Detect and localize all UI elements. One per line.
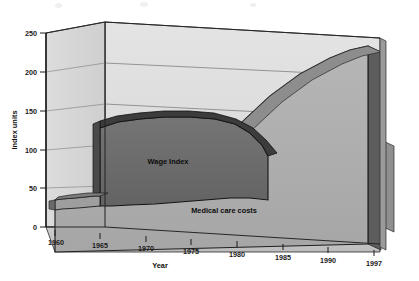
x-axis-title: Year: [152, 261, 168, 270]
y-tick-label-150: 150: [25, 107, 37, 116]
y-tick-label-50: 50: [29, 184, 37, 193]
y-axis-title: Index units: [10, 110, 19, 149]
x-tick-label-1985: 1985: [275, 253, 291, 262]
x-tick-label-1980: 1980: [229, 250, 245, 259]
x-tick-label-1990: 1990: [320, 256, 336, 265]
plot-area-3d: [46, 22, 394, 252]
y-tick-label-250: 250: [25, 29, 37, 38]
step-left-depth: [49, 200, 55, 210]
series-label-medical-care-costs: Medical care costs: [191, 206, 257, 215]
chart-container: 0 50 100 150 200 250 Index units 1960 19…: [0, 0, 419, 281]
series-label-wage-index: Wage Index: [148, 157, 190, 166]
scan-artifact-speck: [55, 3, 62, 8]
x-tick-label-1965: 1965: [92, 241, 108, 250]
scan-artifact-speck: [250, 3, 256, 7]
medical-depth-side: [368, 46, 381, 250]
scan-artifact-speck: [140, 2, 148, 7]
x-tick-label-1960: 1960: [48, 238, 64, 247]
x-tick-label-1975: 1975: [183, 247, 199, 256]
y-tick-label-0: 0: [33, 223, 37, 232]
three-d-area-chart: 0 50 100 150 200 250 Index units 1960 19…: [0, 0, 419, 281]
y-tick-label-200: 200: [25, 68, 37, 77]
y-tick-label-100: 100: [25, 146, 37, 155]
x-tick-label-1970: 1970: [138, 244, 154, 253]
right-frame-edge: [380, 38, 386, 250]
x-tick-label-1997: 1997: [366, 259, 382, 268]
